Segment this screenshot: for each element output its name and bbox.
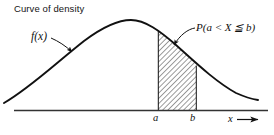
curve-of-density-label: Curve of density — [14, 4, 84, 14]
probability-leader-arrow — [174, 28, 195, 45]
density-curve-figure: Curve of density f(x) P(a < X ≦ b) a b x — [0, 0, 274, 135]
x-tick-label-a: a — [153, 113, 158, 124]
density-function-label: f(x) — [31, 31, 47, 43]
x-tick-label-b: b — [190, 113, 195, 124]
probability-label: P(a < X ≦ b) — [196, 22, 255, 33]
x-axis-label: x — [228, 114, 233, 125]
fx-leader-arrow — [51, 38, 72, 52]
